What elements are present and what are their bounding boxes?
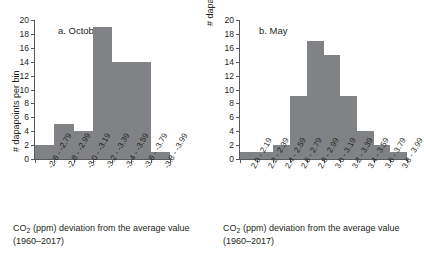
chart-panel-october: a. October # dapapoints per bin 02468101…	[0, 0, 207, 264]
y-tick-label: 6	[24, 113, 29, 122]
x-axis-title-october: CO2 (ppm) deviation from the average val…	[13, 222, 199, 247]
plot-area-october: 02468101214161820 -2.6 - -2.79-2.8 - -2.…	[34, 20, 170, 160]
x-axis-title-rest: (ppm) deviation from the average	[30, 223, 165, 233]
y-tick-label: 2	[24, 141, 29, 150]
y-tick-label: 4	[229, 127, 234, 136]
chart-panel-may: b. May # dapapoints per bin 024681012141…	[207, 0, 420, 264]
plot-area-may: 02468101214161820 2.0 - 2.192.2 - 2.392.…	[239, 20, 407, 160]
y-tick-label: 18	[20, 30, 29, 39]
y-tick-label: 14	[20, 57, 29, 66]
y-tick-label: 16	[20, 44, 29, 53]
y-tick-label: 14	[225, 57, 234, 66]
y-tick-label: 10	[20, 85, 29, 94]
y-tick-label: 6	[229, 113, 234, 122]
x-axis-title-co-text: CO	[13, 223, 27, 233]
y-tick-label: 0	[24, 155, 29, 164]
x-axis-title-co-text: CO	[223, 223, 237, 233]
y-tick-label: 8	[24, 99, 29, 108]
y-tick-label: 8	[229, 99, 234, 108]
y-tick-label: 16	[225, 44, 234, 53]
y-tick-label: 2	[229, 141, 234, 150]
y-axis-title-may: # dapapoints per bin	[205, 0, 215, 26]
y-tick-label: 12	[225, 71, 234, 80]
x-axis-labels-may: 2.0 - 2.192.2 - 2.392.4 - 2.592.6 - 2.79…	[240, 159, 407, 215]
y-tick-label: 20	[20, 16, 29, 25]
y-tick-label: 12	[20, 71, 29, 80]
y-tick-label: 10	[225, 85, 234, 94]
x-axis-labels-october: -2.6 - -2.79-2.8 - -2.99-3.0 - -3.19-3.2…	[35, 159, 170, 215]
y-tick-label: 20	[225, 16, 234, 25]
y-tick-label: 4	[24, 127, 29, 136]
x-axis-title-rest: (ppm) deviation from the average	[240, 223, 375, 233]
x-axis-title-may: CO2 (ppm) deviation from the average val…	[223, 222, 409, 247]
y-tick-label: 18	[225, 30, 234, 39]
y-tick-label: 0	[229, 155, 234, 164]
